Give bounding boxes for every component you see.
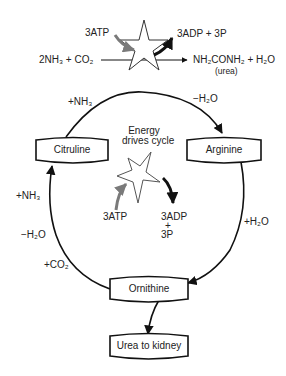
label-arginine-h2o: −H₂O bbox=[193, 93, 218, 104]
arrow-ornithine-to-urea bbox=[148, 300, 159, 334]
top-reactants-label: 2NH₃ + CO₂ bbox=[39, 54, 93, 65]
urea-to-kidney-label: Urea to kidney bbox=[110, 340, 188, 351]
citruline-label: Citruline bbox=[36, 144, 108, 155]
center-adp-arrow-icon bbox=[163, 178, 173, 203]
top-atp-label: 3ATP bbox=[85, 27, 109, 38]
center-adp-label-line3: 3P bbox=[161, 229, 173, 240]
top-adp-label: 3ADP + 3P bbox=[177, 28, 227, 39]
center-atp-label: 3ATP bbox=[103, 211, 127, 222]
center-atp-arrow-icon bbox=[116, 184, 126, 210]
top-star-icon bbox=[120, 20, 168, 70]
top-products-label: NH₂CONH₂ + H₂O bbox=[193, 54, 275, 65]
center-star-icon bbox=[117, 152, 160, 203]
label-citruline-to-arginine-nh3: +NH₃ bbox=[68, 96, 92, 107]
ornithine-label: Ornithine bbox=[110, 283, 188, 294]
arc-arginine-to-ornithine bbox=[188, 162, 244, 283]
energy-caption-line2: drives cycle bbox=[122, 135, 174, 146]
arginine-label: Arginine bbox=[187, 144, 261, 155]
label-left-nh3: +NH₃ bbox=[16, 190, 40, 201]
label-left-h2o: −H₂O bbox=[21, 229, 46, 240]
arc-ornithine-to-citruline bbox=[50, 166, 110, 289]
label-left-co2: +CO₂ bbox=[44, 259, 69, 270]
top-product-note: (urea) bbox=[215, 66, 238, 77]
label-arginine-to-ornithine-h2o: +H₂O bbox=[244, 216, 269, 227]
